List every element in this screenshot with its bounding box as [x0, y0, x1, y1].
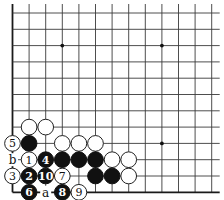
stone-circle [88, 152, 104, 168]
white-stone [121, 152, 137, 168]
stone-circle [71, 152, 87, 168]
black-stone [71, 152, 87, 168]
go-board: 51432107689 ba [0, 0, 224, 200]
white-stone [38, 119, 54, 135]
stone-circle [21, 119, 37, 135]
white-stone-move-9: 9 [71, 184, 87, 200]
stone-circle [121, 152, 137, 168]
stone-circle [38, 119, 54, 135]
black-stone [21, 136, 37, 152]
black-stone-move-8: 8 [54, 184, 70, 200]
black-stone-move-10: 10 [38, 168, 54, 184]
stone-circle [104, 168, 120, 184]
stone-circle [121, 168, 137, 184]
go-board-diagram: 51432107689 ba [0, 0, 224, 200]
white-stone [54, 136, 70, 152]
move-number-label: 9 [75, 186, 82, 199]
black-stone [88, 168, 104, 184]
marker-label: b [9, 153, 17, 167]
stone-circle [104, 152, 120, 168]
move-number-label: 10 [38, 170, 54, 183]
stone-circle [54, 136, 70, 152]
marker-label: a [42, 186, 49, 200]
stone-circle [88, 168, 104, 184]
black-stone [104, 168, 120, 184]
black-stone-move-6: 6 [21, 184, 37, 200]
move-number-label: 7 [59, 170, 66, 183]
point-marker-a: a [40, 186, 51, 200]
move-number-label: 2 [25, 170, 33, 183]
move-number-label: 3 [9, 170, 16, 183]
move-number-label: 4 [42, 154, 50, 167]
stone-circle [54, 152, 70, 168]
white-stone [71, 136, 87, 152]
move-number-label: 6 [25, 186, 33, 199]
stone-circle [21, 136, 37, 152]
white-stone-move-3: 3 [5, 168, 21, 184]
black-stone [54, 152, 70, 168]
move-number-label: 1 [26, 154, 33, 167]
white-stone-move-5: 5 [5, 136, 21, 152]
black-stone-move-4: 4 [38, 152, 54, 168]
star-point [160, 142, 164, 146]
black-stone [88, 152, 104, 168]
stone-circle [88, 136, 104, 152]
white-stone-move-7: 7 [54, 168, 70, 184]
white-stone [21, 119, 37, 135]
stone-circle [71, 136, 87, 152]
black-stone-move-2: 2 [21, 168, 37, 184]
star-point [60, 44, 64, 48]
white-stone [104, 152, 120, 168]
point-marker-b: b [7, 153, 18, 167]
white-stone [88, 136, 104, 152]
white-stone-move-1: 1 [21, 152, 37, 168]
move-number-label: 8 [58, 186, 66, 199]
star-point [160, 44, 164, 48]
white-stone [121, 168, 137, 184]
move-number-label: 5 [9, 137, 16, 150]
